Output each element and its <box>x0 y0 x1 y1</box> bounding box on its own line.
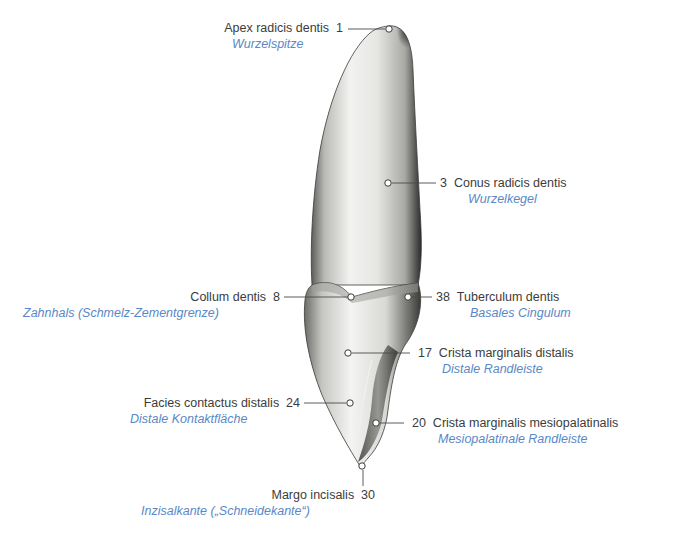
tooth-crown <box>304 283 420 466</box>
label-crista-mesiopalatinalis-latin: 20 Crista marginalis mesiopalatinalis <box>412 416 618 431</box>
tooth-root <box>311 26 421 285</box>
label-margo-german: Inzisalkante („Schneidekante“) <box>141 504 310 519</box>
label-crista-distalis-german: Distale Randleiste <box>442 362 543 377</box>
label-tuberculum-latin: 38 Tuberculum dentis <box>436 290 559 305</box>
label-collum-latin: Collum dentis 8 <box>100 290 280 305</box>
label-apex-german: Wurzelspitze <box>232 37 304 52</box>
label-conus-german: Wurzelkegel <box>468 192 537 207</box>
label-facies-latin: Facies contactus distalis 24 <box>80 396 300 411</box>
label-tuberculum-german: Basales Cingulum <box>470 306 571 321</box>
label-facies-german: Distale Kontaktfläche <box>130 412 247 427</box>
anatomy-figure: Apex radicis dentis 1 Wurzelspitze 3 Con… <box>0 0 677 551</box>
label-conus-latin: 3 Conus radicis dentis <box>440 176 566 191</box>
label-collum-german: Zahnhals (Schmelz-Zementgrenze) <box>23 306 219 321</box>
label-apex-latin: Apex radicis dentis 1 <box>150 21 343 36</box>
tooth-illustration <box>0 0 677 551</box>
label-apex: Apex radicis dentis 1 <box>150 21 343 36</box>
label-crista-distalis-latin: 17 Crista marginalis distalis <box>418 346 574 361</box>
label-crista-mesiopalatinalis-german: Mesiopalatinale Randleiste <box>438 432 587 447</box>
label-margo-latin: Margo incisalis 30 <box>180 488 375 503</box>
